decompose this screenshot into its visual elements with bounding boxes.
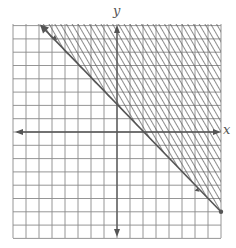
coordinate-plane: [0, 0, 236, 248]
x-axis-label: x: [223, 122, 230, 137]
y-axis-label: y: [113, 3, 120, 18]
